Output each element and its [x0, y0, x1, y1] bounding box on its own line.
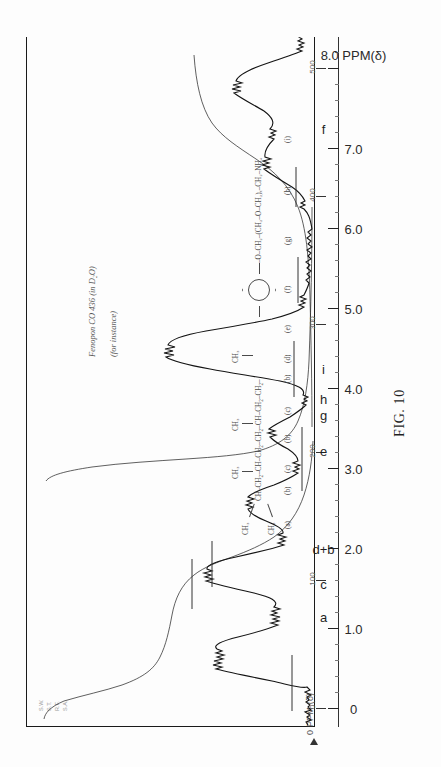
- structure-bond-m1: [242, 471, 253, 472]
- structure-tag-a: (a): [284, 521, 292, 529]
- structure-tag-b1: (b): [284, 487, 292, 495]
- figure-page: 0 PPM (δ) S.W. S.T. R.F. S.A.: [0, 0, 441, 767]
- structure-tag-c2: (c): [284, 407, 292, 415]
- structure-bond-m3: [242, 355, 253, 356]
- nmr-figure: 0 PPM (δ) S.W. S.T. R.F. S.A.: [0, 0, 441, 767]
- ppm-label-6: 6.0: [344, 222, 362, 237]
- peak-label-g: g: [320, 408, 327, 423]
- peak-label-row: a c d+b e g h i f: [316, 37, 336, 727]
- sample-caption: Fenopon CO 436 (in D₂O) (for instance): [86, 266, 120, 357]
- structure-tag-b2: (b): [284, 435, 292, 443]
- structure-methyl-b1: CH₃: [232, 467, 240, 480]
- peak-label-d-b: d+b: [312, 542, 334, 557]
- ppm-label-5: 5.0: [344, 302, 362, 317]
- ppm-label-1: 1.0: [344, 622, 362, 637]
- structure-tag-d: (d): [284, 355, 292, 363]
- ppm-ruler: [338, 37, 339, 727]
- ppm-label-2: 2.0: [344, 542, 362, 557]
- peak-label-h: h: [320, 392, 327, 407]
- benzene-aromatic-circle: [248, 279, 270, 301]
- figure-caption: FIG. 10: [392, 389, 408, 437]
- ppm-label-3: 3.0: [344, 462, 362, 477]
- peak-label-c: c: [320, 577, 327, 592]
- structure-backbone: CH–CH2–CH–CH2–CH2–CH–CH2–CH2–: [255, 379, 264, 501]
- structure-tag-e: (e): [284, 325, 292, 333]
- ppm-label-0: 0: [350, 702, 357, 717]
- structure-bond-ring-left: [259, 306, 260, 317]
- chemical-structure: CH₃ CH₃ CH–CH2–CH–CH2–CH2–CH–CH2–CH2– CH…: [150, 65, 310, 535]
- structure-methyl-b2: CH₃: [232, 419, 240, 432]
- structure-tag-h: (h): [284, 187, 292, 195]
- structure-methyl-b3: CH₃: [232, 351, 240, 364]
- structure-bond-m2: [242, 423, 253, 424]
- structure-tag-i: (i): [284, 136, 292, 143]
- structure-tag-f: (f): [284, 286, 292, 293]
- ppm-origin-arrow: [310, 738, 318, 745]
- ppm-label-4: 4.0: [344, 382, 362, 397]
- structure-tag-b3: (b): [284, 375, 292, 383]
- structure-bond-v1: [249, 504, 255, 517]
- structure-ether-chain: –O–CH₂–(CH₂–O–CH₂)ₓ–CH₂–NH₄: [255, 158, 263, 263]
- peak-label-f: f: [322, 122, 326, 137]
- peak-label-i: i: [322, 362, 325, 377]
- peak-label-e: e: [320, 444, 327, 459]
- structure-bond-v2: [267, 504, 273, 517]
- peak-label-a: a: [320, 610, 327, 625]
- sample-caption-line-1: Fenopon CO 436 (in D₂O): [86, 266, 99, 357]
- ppm-label-7: 7.0: [344, 142, 362, 157]
- benzene-ring-icon: [242, 273, 276, 307]
- structure-methyl-a2: CH₃: [268, 523, 276, 536]
- structure-methyl-a1: CH₃: [242, 523, 250, 536]
- sample-caption-line-2: (for instance): [107, 266, 120, 357]
- structure-tag-g: (g): [284, 237, 292, 245]
- structure-tag-c1: (c): [284, 465, 292, 473]
- ppm-scale-numbers: 0 1.0 2.0 3.0 4.0 5.0 6.0 7.0 8.0 PPM(δ): [344, 37, 374, 727]
- structure-bond-ring-right: [259, 263, 260, 274]
